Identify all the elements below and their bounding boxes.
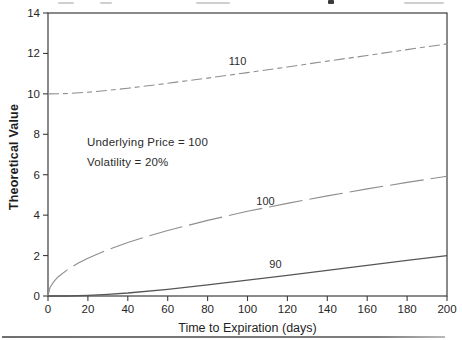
- annotation-underlying-price: Underlying Price = 100: [87, 136, 208, 148]
- x-tick-label: 0: [45, 303, 51, 315]
- cropped-caption-remnant: [196, 2, 230, 4]
- cropped-caption-remnant: [404, 2, 444, 4]
- annotation-volatility: Volatility = 20%: [87, 156, 169, 168]
- x-tick-label: 140: [318, 303, 337, 315]
- chart-svg: 0204060801001201401601802000246810121411…: [0, 0, 462, 340]
- x-axis-label: Time to Expiration (days): [48, 321, 447, 335]
- y-tick-label: 0: [34, 290, 40, 302]
- y-tick-label: 4: [34, 209, 41, 221]
- cropped-caption-remnant: [100, 2, 112, 4]
- option-theoretical-value-figure: 0204060801001201401601802000246810121411…: [0, 0, 462, 340]
- plot-border: [48, 13, 447, 296]
- x-tick-label: 100: [238, 303, 257, 315]
- x-tick-label: 60: [161, 303, 174, 315]
- x-tick-label: 40: [121, 303, 134, 315]
- curve-label-110: 110: [229, 55, 247, 67]
- y-tick-label: 14: [27, 7, 40, 19]
- y-tick-label: 12: [27, 47, 40, 59]
- y-tick-label: 8: [34, 128, 40, 140]
- y-axis-label: Theoretical Value: [7, 101, 21, 213]
- curve-90: [48, 256, 447, 296]
- x-tick-label: 80: [201, 303, 214, 315]
- curve-label-100: 100: [256, 195, 274, 207]
- x-tick-label: 180: [398, 303, 417, 315]
- x-tick-label: 120: [278, 303, 297, 315]
- x-tick-label: 20: [82, 303, 95, 315]
- x-tick-label: 160: [358, 303, 377, 315]
- y-tick-label: 6: [34, 169, 40, 181]
- y-tick-label: 2: [34, 250, 40, 262]
- y-tick-label: 10: [27, 88, 40, 100]
- cropped-caption-remnant: [58, 2, 74, 4]
- curve-100: [48, 176, 447, 296]
- x-tick-label: 200: [437, 303, 456, 315]
- curve-label-90: 90: [269, 258, 281, 270]
- page-rule: [2, 336, 445, 338]
- cropped-caption-remnant: [328, 0, 334, 4]
- curve-110: [48, 44, 447, 94]
